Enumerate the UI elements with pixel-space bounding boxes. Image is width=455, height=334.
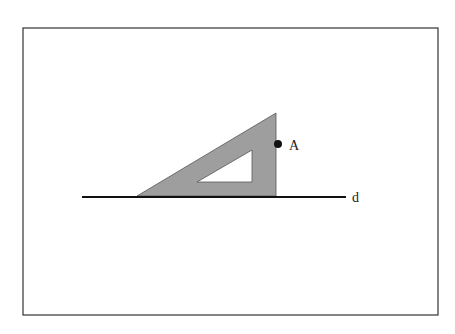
diagram-frame xyxy=(23,28,438,315)
point-a xyxy=(274,140,282,148)
diagram-canvas: A d xyxy=(0,0,455,334)
point-a-label: A xyxy=(289,138,300,153)
line-d-label: d xyxy=(352,190,359,205)
set-square xyxy=(137,113,276,196)
